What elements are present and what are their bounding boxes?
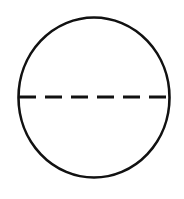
diagram-canvas bbox=[0, 0, 184, 199]
circle-diagram bbox=[0, 0, 184, 199]
circle-outline bbox=[19, 18, 170, 178]
